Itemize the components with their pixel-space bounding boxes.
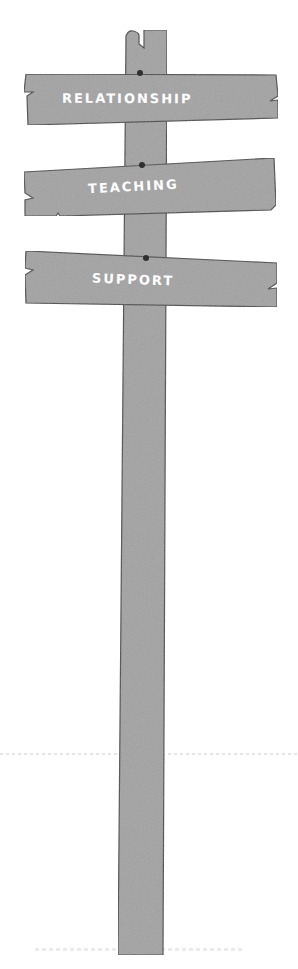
nail-icon — [139, 162, 145, 168]
signpost-illustration: RELATIONSHIP TEACHING SUPPORT — [0, 0, 298, 969]
nail-icon — [143, 255, 149, 261]
nail-icon — [137, 70, 143, 76]
sign-label-relationship: RELATIONSHIP — [62, 91, 193, 107]
sign-label-support: SUPPORT — [92, 271, 175, 289]
signpost-graphic — [0, 0, 298, 969]
